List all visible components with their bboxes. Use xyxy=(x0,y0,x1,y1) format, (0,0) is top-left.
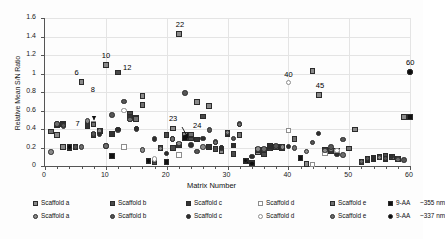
data-point xyxy=(79,144,84,149)
data-point xyxy=(176,152,182,158)
data-point xyxy=(91,131,96,136)
x-tick-label: 10 xyxy=(96,171,114,178)
gridline-vertical xyxy=(228,18,229,166)
data-point xyxy=(316,92,322,98)
legend-label: Scaffold d xyxy=(266,199,294,206)
annotation-arrow-8 xyxy=(89,111,101,127)
data-point xyxy=(346,146,352,152)
legend-marker-icon xyxy=(33,214,38,219)
x-tick-mark xyxy=(252,166,253,169)
data-point xyxy=(140,93,146,99)
data-point xyxy=(152,156,157,161)
y-tick-mark xyxy=(41,129,45,130)
y-tick-mark xyxy=(41,18,45,19)
data-point xyxy=(61,123,66,128)
data-point xyxy=(176,31,182,37)
x-tick-mark xyxy=(264,166,265,169)
legend-marker-icon xyxy=(330,214,335,219)
data-point xyxy=(206,103,212,109)
data-point xyxy=(213,146,219,152)
x-tick-mark xyxy=(142,166,143,169)
data-point xyxy=(359,159,364,164)
plot-area: 6781012222324404560 xyxy=(44,18,410,167)
data-point xyxy=(207,127,212,132)
data-point xyxy=(237,122,242,127)
x-tick-mark xyxy=(57,166,58,169)
x-tick-mark xyxy=(203,166,204,169)
legend-label: Scaffold d xyxy=(266,212,294,219)
plot-region: Relative Mean S/N Ratio 00.20.40.60.811.… xyxy=(0,0,423,200)
y-tick-mark xyxy=(41,55,45,56)
data-point xyxy=(48,129,54,135)
data-point xyxy=(109,153,115,159)
data-point xyxy=(371,155,376,160)
x-tick-mark xyxy=(276,166,277,169)
y-tick-mark xyxy=(41,92,45,93)
legend-marker-icon xyxy=(110,214,115,219)
data-point xyxy=(261,146,266,151)
legend-marker-icon xyxy=(186,214,191,219)
legend-label: Scaffold c xyxy=(194,212,222,219)
x-tick-mark xyxy=(94,166,95,169)
data-point xyxy=(200,114,206,120)
gridline-vertical xyxy=(410,18,411,166)
data-point xyxy=(127,117,132,122)
data-point xyxy=(164,151,169,156)
data-point xyxy=(115,127,120,132)
data-point xyxy=(103,62,109,68)
data-point xyxy=(164,132,170,138)
data-point xyxy=(280,144,285,149)
y-tick-label: 1.4 xyxy=(14,32,36,39)
x-tick-mark xyxy=(155,166,156,169)
data-point xyxy=(395,157,400,162)
data-point xyxy=(286,80,291,85)
data-point xyxy=(170,145,176,151)
point-annotation: 60 xyxy=(406,58,414,67)
y-tick-label: 0.4 xyxy=(14,124,36,131)
legend-row: Scaffold aScaffold bScaffold cScaffold d… xyxy=(0,198,423,211)
legend-marker-icon xyxy=(258,214,263,219)
data-point xyxy=(237,132,243,138)
legend-row: Scaffold aScaffold bScaffold cScaffold d… xyxy=(0,211,423,224)
x-tick-mark xyxy=(179,166,180,169)
data-point xyxy=(340,152,345,157)
y-tick-mark xyxy=(41,111,45,112)
data-point xyxy=(273,143,278,148)
x-tick-mark xyxy=(130,166,131,169)
data-point xyxy=(121,99,126,104)
data-point xyxy=(407,114,413,120)
data-point xyxy=(48,149,53,154)
data-point xyxy=(292,145,297,150)
x-tick-mark xyxy=(215,166,216,169)
data-point xyxy=(298,155,304,161)
legend-marker-icon xyxy=(388,214,393,219)
x-tick-label: 30 xyxy=(218,171,236,178)
x-tick-label: 50 xyxy=(339,171,357,178)
chart-legend: Scaffold aScaffold bScaffold cScaffold d… xyxy=(0,198,423,232)
y-tick-label: 0 xyxy=(14,161,36,168)
legend-wavelength-label: ~337 nm xyxy=(420,212,445,219)
data-point xyxy=(322,148,327,153)
data-point xyxy=(310,140,315,145)
x-tick-mark xyxy=(82,166,83,169)
x-tick-mark xyxy=(69,166,70,169)
data-point xyxy=(334,148,339,153)
data-point xyxy=(328,144,333,149)
data-point xyxy=(121,144,127,150)
y-tick-mark xyxy=(41,148,45,149)
x-tick-label: 60 xyxy=(400,171,418,178)
data-point xyxy=(352,127,358,133)
x-tick-mark xyxy=(361,166,362,169)
data-point xyxy=(182,90,187,95)
x-tick-mark xyxy=(167,166,168,170)
point-annotation: 10 xyxy=(102,51,110,60)
data-point xyxy=(310,162,316,168)
legend-label: Scaffold a xyxy=(41,212,69,219)
data-point xyxy=(103,143,108,148)
legend-marker-icon xyxy=(186,201,191,206)
data-point xyxy=(140,147,145,152)
x-tick-label: 20 xyxy=(157,171,175,178)
y-tick-label: 1.6 xyxy=(14,13,36,20)
legend-label: Scaffold e xyxy=(338,212,366,219)
x-tick-mark xyxy=(325,166,326,169)
